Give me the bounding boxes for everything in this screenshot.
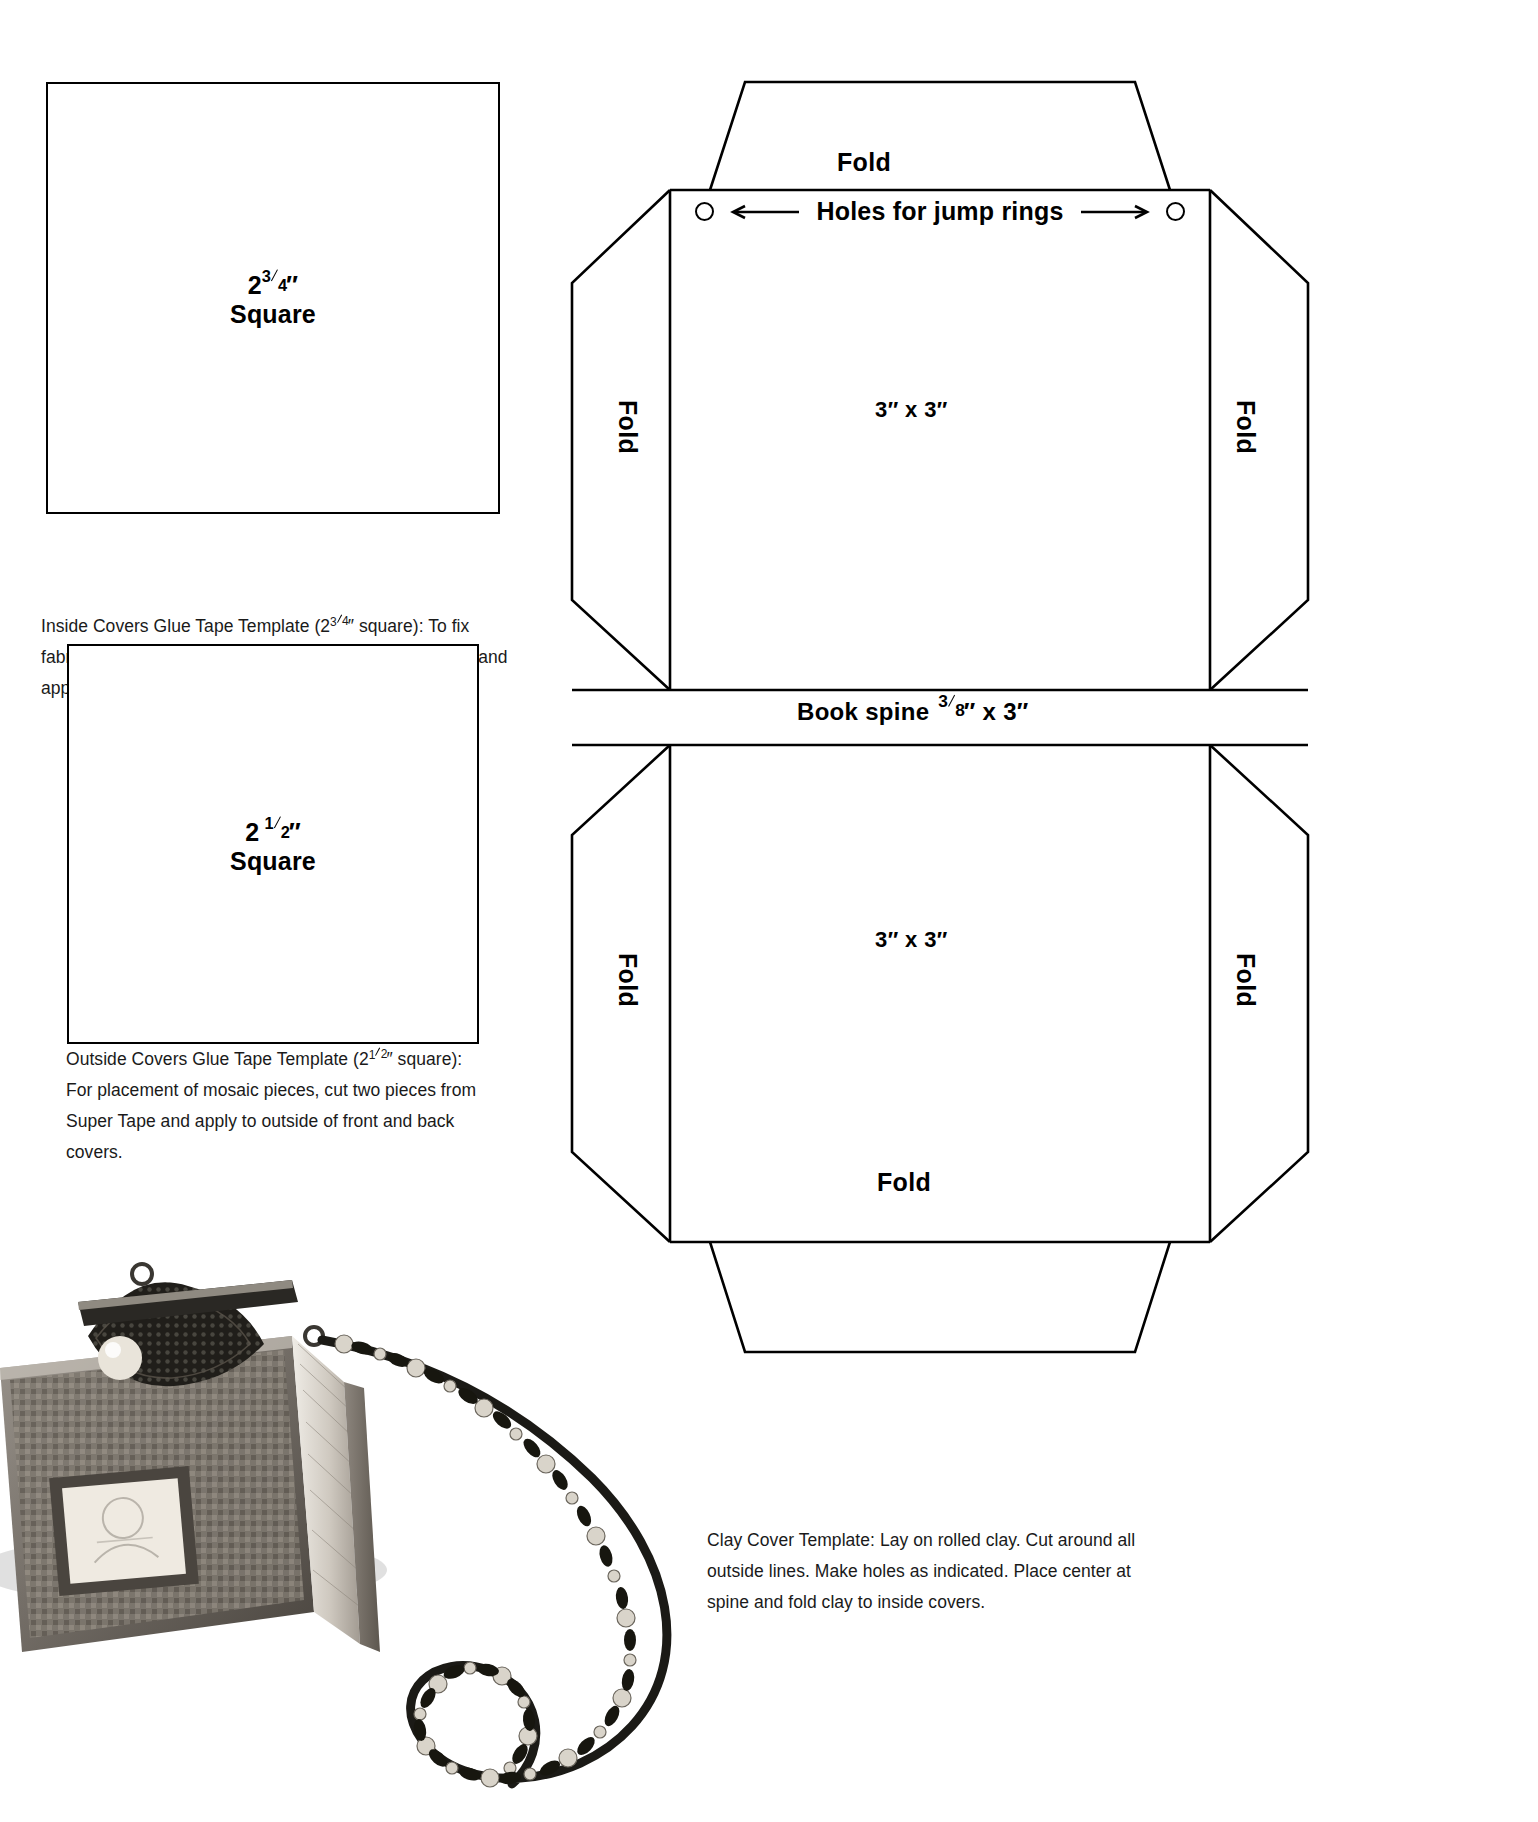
fold-label-lower-right: Fold (1231, 953, 1260, 1007)
photo-pearl-clasp (98, 1336, 142, 1380)
book-spine-label: Book spine 38″ x 3″ (797, 698, 1029, 726)
fold-label-bottom: Fold (877, 1168, 931, 1197)
fraction-three-quarters: 34 (262, 274, 286, 295)
lower-panel-dimension: 3″ x 3″ (875, 927, 948, 953)
book-spine-dimension: ″ x 3″ (964, 698, 1029, 726)
photo-jump-ring-left (132, 1264, 152, 1284)
fraction-three-eighths: 38 (938, 698, 963, 720)
inside-square-dimension: 234″ (48, 271, 498, 300)
outside-square-shape-word: Square (69, 847, 477, 876)
photo-frame-image (62, 1478, 186, 1584)
outside-covers-template-square: 2 12″ Square (67, 644, 479, 1044)
clay-cover-template-diagram: Fold Holes for jump rings Fold Fold (565, 70, 1295, 1310)
top-flap-outline (710, 82, 1170, 190)
fold-label-upper-left: Fold (613, 400, 642, 454)
inside-caption-lead: Inside Covers Glue Tape Template (2 (41, 616, 330, 636)
fold-label-upper-right: Fold (1231, 400, 1260, 454)
fraction-three-quarters-caption: 34 (330, 617, 348, 632)
fold-label-lower-left: Fold (613, 953, 642, 1007)
photo-artwork (0, 1240, 732, 1822)
jump-ring-hole-right-icon (1166, 202, 1185, 221)
outside-square-label: 2 12″ Square (69, 818, 477, 876)
jump-ring-holes-label: Holes for jump rings (816, 197, 1063, 226)
outside-covers-caption: Outside Covers Glue Tape Template (212″ … (66, 1044, 486, 1169)
arrow-left-icon (729, 204, 801, 220)
template-page: 234″ Square Inside Covers Glue Tape Temp… (0, 0, 1538, 1822)
photo-pearl-highlight (105, 1342, 121, 1358)
clay-cover-outline (565, 70, 1295, 1310)
arrow-right-icon (1079, 204, 1151, 220)
fraction-one-half: 12 (264, 821, 288, 842)
inside-covers-template-square: 234″ Square (46, 82, 500, 514)
outside-square-dimension: 2 12″ (69, 818, 477, 847)
clay-cover-caption: Clay Cover Template: Lay on rolled clay.… (707, 1525, 1162, 1618)
finished-book-purse-photo (0, 1240, 732, 1822)
jump-ring-holes-row: Holes for jump rings (695, 197, 1185, 226)
upper-panel-dimension: 3″ x 3″ (875, 397, 948, 423)
fold-label-top: Fold (837, 148, 891, 177)
outside-caption-lead: Outside Covers Glue Tape Template (2 (66, 1049, 369, 1069)
inside-square-shape-word: Square (48, 300, 498, 329)
inside-square-label: 234″ Square (48, 271, 498, 329)
jump-ring-hole-left-icon (695, 202, 714, 221)
book-spine-text: Book spine (797, 698, 929, 726)
fraction-one-half-caption: 12 (369, 1050, 387, 1065)
bottom-flap-outline (710, 1242, 1170, 1352)
